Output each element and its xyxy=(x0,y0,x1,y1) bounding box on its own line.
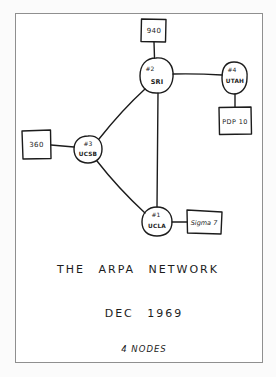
diagram-date: DEC 1969 xyxy=(0,307,276,320)
imp-number-ucla: #1 xyxy=(152,211,161,218)
host-pdp10: PDP 10 xyxy=(219,107,252,135)
imp-circle-sri xyxy=(140,58,173,93)
imp-site-ucsb: UCSB xyxy=(79,151,98,157)
imp-site-sri: SRI xyxy=(151,78,164,86)
imp-sri: #2 SRI xyxy=(140,58,173,93)
host-label-pdp10: PDP 10 xyxy=(222,118,248,126)
imp-site-utah: UTAH xyxy=(226,78,244,84)
imp-ucsb: #3 UCSB xyxy=(74,136,102,163)
link-940-sri xyxy=(154,42,155,58)
diagram-title: THE ARPA NETWORK xyxy=(0,263,276,276)
host-940: 940 xyxy=(141,19,166,42)
host-label-360: 360 xyxy=(29,141,44,149)
network-links xyxy=(97,74,222,213)
host-label-940: 940 xyxy=(147,27,162,35)
host-sigma7: Sigma 7 xyxy=(187,210,222,234)
host-360: 360 xyxy=(22,130,51,159)
imp-ucla: #1 UCLA xyxy=(142,207,172,236)
link-ucsb-ucla xyxy=(97,161,145,213)
link-sri-ucla xyxy=(157,93,158,207)
node-count-label: 4 NODES xyxy=(0,344,276,354)
imp-site-ucla: UCLA xyxy=(148,223,166,229)
imp-number-sri: #2 xyxy=(146,65,155,72)
imp-number-ucsb: #3 xyxy=(84,140,93,147)
link-sri-utah xyxy=(173,74,222,75)
imp-number-utah: #4 xyxy=(228,66,237,73)
link-360-ucsb xyxy=(51,145,74,147)
host-label-sigma7: Sigma 7 xyxy=(191,219,218,227)
link-sri-ucsb xyxy=(99,89,145,139)
arpa-network-diagram: 940 PDP 10 360 Sigma 7 #2 SRI #4 UTAH #3… xyxy=(0,0,276,377)
imp-utah: #4 UTAH xyxy=(222,62,247,94)
host-links xyxy=(51,42,235,222)
